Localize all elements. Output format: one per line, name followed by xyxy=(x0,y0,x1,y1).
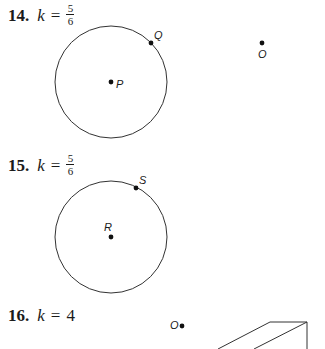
label-s: S xyxy=(139,174,147,186)
point-s xyxy=(134,186,139,191)
label-o: O xyxy=(258,48,267,60)
point-p xyxy=(109,80,114,85)
label-q: Q xyxy=(154,29,163,41)
point-q xyxy=(149,41,154,46)
label-r: R xyxy=(104,221,112,233)
prism-shape xyxy=(218,322,307,349)
label-p: P xyxy=(116,78,124,90)
label-o: O xyxy=(170,319,179,331)
figure-16: O xyxy=(170,319,307,349)
point-o xyxy=(180,324,185,329)
figure-15: R S xyxy=(55,174,167,293)
point-r xyxy=(109,235,114,240)
point-o xyxy=(260,41,265,46)
figure-14: P Q O xyxy=(55,26,267,138)
figures: P Q O R S O xyxy=(0,0,325,349)
